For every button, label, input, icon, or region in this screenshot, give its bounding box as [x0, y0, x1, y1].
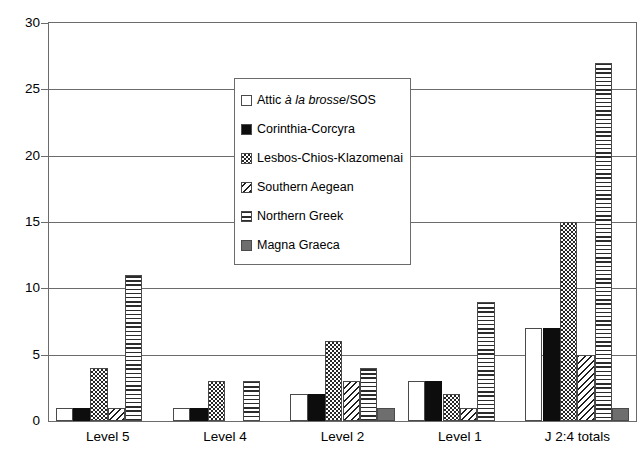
y-axis-tick-mark	[41, 222, 48, 223]
bar	[477, 302, 494, 421]
legend-swatch-icon	[241, 211, 252, 222]
y-axis-tick-mark	[41, 89, 48, 90]
y-axis-tick-mark	[41, 23, 48, 24]
bar	[308, 394, 325, 421]
y-axis-tick-label: 30	[6, 16, 40, 30]
y-axis-tick-label: 25	[6, 82, 40, 96]
legend-item: Magna Graeca	[241, 231, 410, 260]
bar	[125, 275, 142, 421]
bar	[443, 394, 460, 421]
bar	[90, 368, 107, 421]
legend-swatch-icon	[241, 95, 252, 106]
bar	[577, 355, 594, 421]
y-axis-tick-mark	[41, 156, 48, 157]
bar	[56, 408, 73, 421]
bar	[425, 381, 442, 421]
bar	[525, 328, 542, 421]
bar	[543, 328, 560, 421]
legend-swatch-icon	[241, 153, 252, 164]
bar	[460, 408, 477, 421]
bar	[208, 381, 225, 421]
legend-swatch-icon	[241, 124, 252, 135]
y-axis-tick-label: 10	[6, 281, 40, 295]
legend-item-label: Corinthia-Corcyra	[257, 123, 355, 136]
x-axis-tick-label: J 2:4 totals	[517, 430, 637, 444]
bar	[290, 394, 307, 421]
legend-item-label: Lesbos-Chios-Klazomenai	[257, 152, 403, 165]
legend-item-label: Southern Aegean	[257, 181, 354, 194]
bar	[343, 381, 360, 421]
bar	[325, 341, 342, 421]
y-axis-tick-label: 15	[6, 215, 40, 229]
bar	[190, 408, 207, 421]
x-axis-tick-label: Level 1	[400, 430, 520, 444]
y-axis-tick-label: 5	[6, 348, 40, 362]
legend-item: Southern Aegean	[241, 173, 410, 202]
y-axis-tick-mark	[41, 288, 48, 289]
y-axis-tick-label: 20	[6, 149, 40, 163]
legend-item-label: Northern Greek	[257, 210, 343, 223]
legend-item-label: Attic à la brosse/SOS	[257, 94, 376, 107]
bar	[73, 408, 90, 421]
legend-item: Northern Greek	[241, 202, 410, 231]
legend-swatch-icon	[241, 182, 252, 193]
x-axis-tick-label: Level 2	[283, 430, 403, 444]
bar	[108, 408, 125, 421]
y-axis-tick-label: 0	[6, 414, 40, 428]
legend-item: Lesbos-Chios-Klazomenai	[241, 144, 410, 173]
x-axis-tick-label: Level 4	[165, 430, 285, 444]
bar	[408, 381, 425, 421]
legend-item: Corinthia-Corcyra	[241, 115, 410, 144]
legend-swatch-icon	[241, 240, 252, 251]
legend: Attic à la brosse/SOSCorinthia-CorcyraLe…	[234, 78, 411, 265]
bar	[612, 408, 629, 421]
legend-item: Attic à la brosse/SOS	[241, 86, 410, 115]
x-axis-tick-label: Level 5	[48, 430, 168, 444]
bar	[360, 368, 377, 421]
bar	[243, 381, 260, 421]
bar	[595, 63, 612, 421]
bar	[377, 408, 394, 421]
legend-item-label: Magna Graeca	[257, 239, 340, 252]
y-axis: 051015202530	[0, 0, 40, 458]
bar	[560, 222, 577, 421]
bar-chart: 051015202530 Level 5Level 4Level 2Level …	[0, 0, 643, 458]
bar	[173, 408, 190, 421]
y-axis-tick-mark	[41, 355, 48, 356]
